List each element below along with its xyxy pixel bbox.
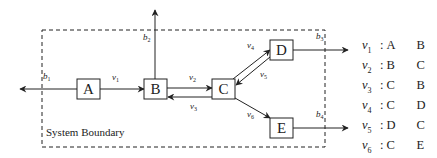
- node-e: E: [270, 118, 293, 138]
- node-d: D: [270, 40, 293, 60]
- svg-text:B: B: [150, 81, 160, 97]
- node-b: B: [144, 79, 167, 99]
- legend-row-v5: v5: DC: [362, 118, 437, 138]
- label-b4: b4: [316, 109, 324, 120]
- system-boundary-label: System Boundary: [46, 126, 125, 138]
- svg-text:A: A: [83, 81, 94, 97]
- svg-text:E: E: [277, 120, 286, 136]
- label-v6: v6: [247, 109, 254, 120]
- legend-row-v2: v2: BC: [362, 58, 437, 78]
- label-v5: v5: [260, 69, 267, 80]
- label-b2: b2: [143, 32, 151, 43]
- label-b3: b3: [316, 31, 324, 42]
- legend-row-v1: v1: AB: [362, 38, 437, 58]
- label-b1: b1: [43, 71, 51, 82]
- svg-text:C: C: [218, 81, 228, 97]
- edge-v5: [236, 57, 270, 85]
- node-c: C: [212, 79, 235, 99]
- legend-row-v3: v3: CB: [362, 78, 437, 98]
- label-v1: v1: [112, 72, 119, 83]
- label-v2: v2: [189, 72, 196, 83]
- node-a: A: [77, 79, 100, 99]
- label-v4: v4: [247, 40, 254, 51]
- legend-row-v6: v6: CE: [362, 138, 437, 158]
- edge-legend: v1: AB v2: BC v3: CB v4: CD v5: DC v6: C…: [362, 38, 437, 158]
- svg-text:D: D: [276, 42, 287, 58]
- legend-row-v4: v4: CD: [362, 98, 437, 118]
- label-v3: v3: [190, 101, 197, 112]
